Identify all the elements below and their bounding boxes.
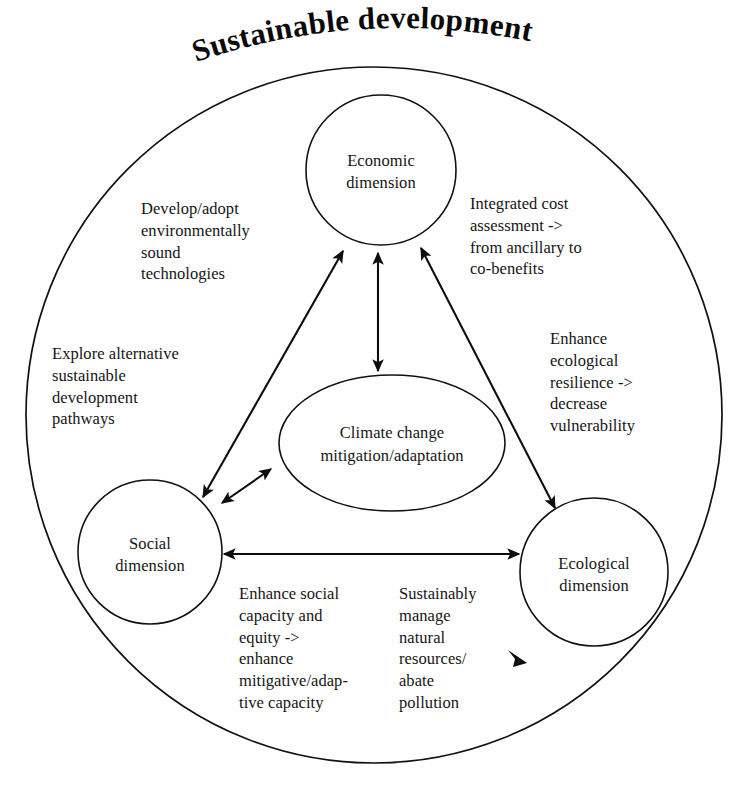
node-ecological-label-line1: Ecological	[558, 554, 630, 573]
annotation-enhance-social: Enhance social capacity and equity -> en…	[239, 583, 389, 714]
stray-arrowhead-icon	[508, 650, 527, 667]
edge-social-center	[222, 469, 271, 503]
annotation-integrated-cost: Integrated cost assessment -> from ancil…	[470, 193, 630, 280]
node-economic-label-line1: Economic	[347, 151, 415, 170]
node-climate-label-line2: mitigation/adaptation	[320, 446, 463, 465]
node-economic-label-line2: dimension	[346, 173, 416, 192]
node-economic-dimension	[306, 95, 456, 245]
annotation-enhance-ecological: Enhance ecological resilience -> decreas…	[550, 328, 680, 437]
annotation-explore-alternative: Explore alternative sustainable developm…	[52, 343, 227, 430]
annotation-develop-adopt: Develop/adopt environmentally sound tech…	[141, 198, 301, 285]
node-climate-change	[279, 375, 505, 511]
edge-economic-ecological	[421, 248, 555, 508]
node-climate-label-line1: Climate change	[340, 423, 445, 442]
node-social-label-line1: Social	[129, 534, 171, 553]
annotation-sustainably-manage: Sustainably manage natural resources/ ab…	[399, 583, 509, 714]
node-ecological-label-line2: dimension	[559, 576, 629, 595]
figure-canvas: Sustainable development Economic dim	[0, 0, 741, 801]
node-social-label-line2: dimension	[115, 556, 185, 575]
